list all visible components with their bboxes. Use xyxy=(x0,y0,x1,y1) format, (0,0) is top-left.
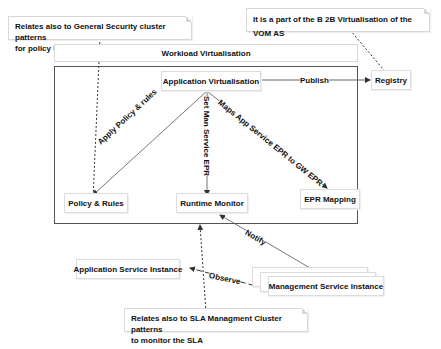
node-label: Registry xyxy=(375,76,407,85)
node-epr-mapping[interactable]: EPR Mapping xyxy=(300,189,360,209)
note-line: Relates also to General Security cluster… xyxy=(15,21,185,43)
note-security-cluster: Relates also to General Security cluster… xyxy=(8,16,192,40)
note-line: to monitor the SLA xyxy=(131,335,301,346)
note-line: Relates also to SLA Managment Cluster pa… xyxy=(131,313,301,335)
node-label: Application Virtualisation xyxy=(163,77,259,86)
node-label: EPR Mapping xyxy=(304,195,356,204)
note-fold-icon xyxy=(186,16,192,22)
note-b2b-virtualisation: It is a part of the B 2B Virtualisation … xyxy=(246,8,430,32)
workload-virtualisation-title: Workload Virtualisation xyxy=(54,44,358,62)
node-label: Runtime Monitor xyxy=(180,199,244,208)
node-label: Policy & Rules xyxy=(68,199,124,208)
edge-label-set-man-service: Set Man Service EPR xyxy=(202,96,211,176)
node-label: Management Service Instance xyxy=(269,282,383,291)
node-label: Application Service Instance xyxy=(74,265,183,274)
note-fold-icon xyxy=(302,308,308,314)
note-sla-cluster: Relates also to SLA Managment Cluster pa… xyxy=(124,308,308,332)
node-application-virtualisation[interactable]: Application Virtualisation xyxy=(161,71,261,91)
node-application-service-instance[interactable]: Application Service Instance xyxy=(76,259,180,279)
note-fold-icon xyxy=(424,8,430,14)
node-registry[interactable]: Registry xyxy=(371,70,411,90)
edge-label-publish: Publish xyxy=(300,76,329,85)
node-policy-rules[interactable]: Policy & Rules xyxy=(64,193,128,213)
node-runtime-monitor[interactable]: Runtime Monitor xyxy=(176,193,248,213)
frame-title-text: Workload Virtualisation xyxy=(161,49,250,58)
note-line: It is a part of the B 2B Virtualisation … xyxy=(253,13,423,41)
node-management-service-instance[interactable]: Management Service Instance xyxy=(268,276,384,296)
